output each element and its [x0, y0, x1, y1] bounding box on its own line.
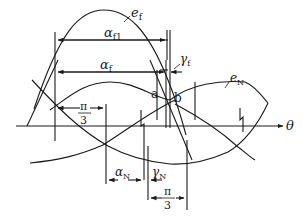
ef-label: ef	[131, 5, 143, 22]
pi3-bottom-denominator: 3	[164, 199, 171, 212]
gamma-f-label: γf	[180, 52, 191, 68]
gamma-N-label: γN	[152, 165, 166, 181]
alpha-f1-label: αf1	[104, 25, 122, 42]
point-b-label: b	[174, 91, 182, 105]
pi3-top-denominator: 3	[80, 114, 87, 127]
pi3-top-numerator: π	[80, 100, 87, 113]
en-rising-lower-curve	[30, 100, 175, 163]
point-a-label: a	[151, 87, 158, 101]
eN-label: eN	[230, 71, 244, 87]
pi3-bottom-numerator: π	[164, 185, 171, 198]
lower-left-curve	[170, 103, 268, 164]
steep-line-left	[27, 60, 58, 126]
alpha-N-label: αN	[115, 165, 130, 181]
eN-leader	[225, 82, 229, 88]
zigzag-mid	[141, 110, 144, 146]
theta-label: θ	[286, 118, 294, 133]
alpha-f-label: αf	[100, 57, 113, 74]
zigzag-right	[240, 108, 243, 132]
commutation-diagram: ef αf1 αf γf eN a b θ π 3 αN γN π 3	[0, 0, 303, 218]
